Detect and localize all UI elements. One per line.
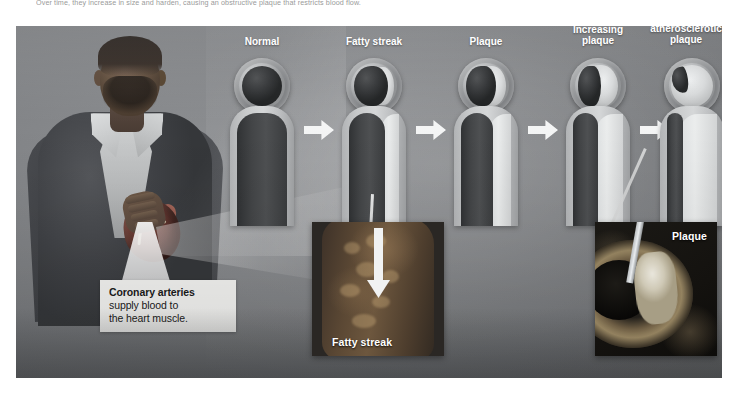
fatty-streak-photo-label: Fatty streak: [332, 336, 392, 348]
stage-fatty-streak: Fatty streak: [328, 28, 420, 228]
vessel-segment-increasing-plaque: [566, 106, 630, 226]
vessel-segment-normal: [230, 106, 294, 226]
fatty-deposit-blob: [352, 314, 376, 328]
callout-title: Coronary arteries: [109, 286, 228, 299]
pointer-arrow-shaft-icon: [374, 228, 383, 284]
fatty-streak-photo: Fatty streak: [312, 222, 444, 356]
lumen: [578, 66, 601, 106]
hair: [98, 36, 162, 76]
fatty-deposit-blob: [340, 284, 360, 297]
vessel-lumen: [573, 113, 598, 226]
vessel-lumen: [667, 113, 683, 226]
vessel-segment-obstructive-plaque: [660, 106, 722, 226]
plaque-photo-label: Plaque: [672, 230, 707, 242]
vessel-segment-fatty-streak: [342, 106, 406, 226]
stage-plaque: Plaque: [440, 28, 532, 228]
lumen: [242, 66, 282, 106]
stage-label-plaque: Plaque: [432, 36, 540, 48]
callout-line-2: the heart muscle.: [109, 312, 228, 325]
stage-label-normal: Normal: [208, 36, 316, 48]
stage-normal: Normal: [216, 28, 308, 228]
stage-obstructive-plaque: Obstructive atherosclerotic plaque: [640, 28, 722, 228]
vessel-lumen: [237, 113, 287, 226]
plaque-photo: Plaque: [595, 222, 717, 356]
plaque-deposit: [490, 114, 511, 226]
stage-label-fatty-streak: Fatty streak: [320, 36, 428, 48]
vessel-segment-plaque: [454, 106, 518, 226]
stage-label-obstructive-line3: plaque: [632, 34, 722, 46]
beard: [103, 76, 157, 118]
stage-increasing-plaque: Increasing plaque: [552, 28, 644, 228]
coronary-arteries-callout: Coronary arteries supply blood to the he…: [100, 280, 236, 332]
top-caption-text: Over time, they increase in size and har…: [36, 0, 696, 9]
fatty-deposit-blob: [344, 242, 360, 254]
vessel-lumen: [349, 113, 385, 226]
vessel-lumen: [461, 113, 493, 226]
plaque-deposit: [680, 114, 717, 226]
fatty-deposit-blob: [372, 296, 390, 308]
callout-line-1: supply blood to: [109, 299, 228, 312]
lumen: [354, 66, 388, 106]
lumen: [466, 66, 496, 106]
